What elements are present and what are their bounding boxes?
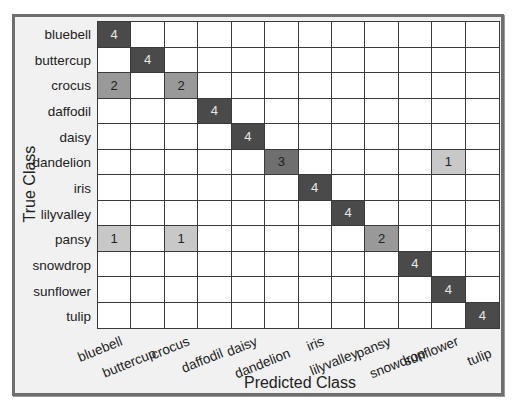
matrix-cell [466, 73, 499, 99]
matrix-cell [165, 277, 198, 303]
matrix-cell [466, 150, 499, 176]
matrix-cell [466, 201, 499, 227]
row-label: daisy [59, 129, 91, 144]
matrix-cell: 3 [265, 150, 298, 176]
matrix-cell [432, 99, 465, 125]
matrix-cell [198, 303, 231, 329]
row-label: daffodil [48, 103, 91, 118]
matrix-cell [432, 48, 465, 74]
matrix-cell [198, 48, 231, 74]
row-label: buttercup [35, 52, 91, 67]
matrix-cell [365, 99, 398, 125]
matrix-cell [365, 277, 398, 303]
matrix-cell: 2 [365, 226, 398, 252]
matrix-cell [165, 201, 198, 227]
matrix-cell [98, 303, 131, 329]
matrix-cell [399, 99, 432, 125]
matrix-cell: 4 [432, 277, 465, 303]
matrix-cell [432, 303, 465, 329]
matrix-cell [399, 277, 432, 303]
matrix-cell: 2 [165, 73, 198, 99]
matrix-cell [332, 48, 365, 74]
matrix-cell [332, 226, 365, 252]
matrix-cell [399, 150, 432, 176]
row-label: iris [74, 180, 91, 195]
matrix-cell [98, 48, 131, 74]
matrix-cell [131, 175, 164, 201]
matrix-cell [299, 201, 332, 227]
matrix-cell [432, 175, 465, 201]
matrix-cell [165, 48, 198, 74]
confusion-matrix-grid: 4422443144112444 [97, 21, 500, 329]
matrix-cell [198, 226, 231, 252]
matrix-cell [265, 22, 298, 48]
matrix-cell [265, 226, 298, 252]
matrix-cell [432, 201, 465, 227]
matrix-cell [299, 22, 332, 48]
row-label: bluebell [44, 26, 91, 41]
matrix-cell [198, 175, 231, 201]
matrix-cell [365, 303, 398, 329]
row-label: lilyvalley [41, 206, 91, 221]
matrix-cell [232, 303, 265, 329]
matrix-cell [399, 48, 432, 74]
matrix-cell [299, 303, 332, 329]
matrix-cell: 4 [299, 175, 332, 201]
matrix-cell [165, 124, 198, 150]
matrix-cell [265, 73, 298, 99]
matrix-cell [332, 22, 365, 48]
matrix-cell [198, 73, 231, 99]
matrix-cell [365, 48, 398, 74]
row-label: dandelion [32, 155, 91, 170]
matrix-cell [98, 277, 131, 303]
matrix-cell [299, 150, 332, 176]
matrix-cell [365, 201, 398, 227]
matrix-cell [466, 99, 499, 125]
matrix-cell [299, 277, 332, 303]
matrix-cell [131, 277, 164, 303]
matrix-cell [332, 303, 365, 329]
row-label: pansy [55, 232, 91, 247]
matrix-cell [265, 175, 298, 201]
matrix-cell [232, 175, 265, 201]
matrix-cell: 1 [165, 226, 198, 252]
matrix-cell [131, 124, 164, 150]
matrix-cell [399, 124, 432, 150]
matrix-cell [265, 48, 298, 74]
matrix-cell: 4 [232, 124, 265, 150]
matrix-cell [232, 48, 265, 74]
matrix-cell [332, 175, 365, 201]
matrix-cell [98, 150, 131, 176]
matrix-cell [198, 22, 231, 48]
matrix-cell [332, 277, 365, 303]
matrix-cell [466, 226, 499, 252]
matrix-cell [299, 73, 332, 99]
matrix-cell [299, 99, 332, 125]
matrix-cell [198, 277, 231, 303]
matrix-cell [232, 252, 265, 278]
matrix-cell: 1 [432, 150, 465, 176]
matrix-cell [332, 150, 365, 176]
row-label: sunflower [33, 283, 91, 298]
matrix-cell [432, 226, 465, 252]
matrix-cell [198, 150, 231, 176]
matrix-cell [299, 252, 332, 278]
matrix-cell [98, 201, 131, 227]
matrix-cell [265, 252, 298, 278]
matrix-cell: 4 [198, 99, 231, 125]
matrix-cell [299, 124, 332, 150]
matrix-cell: 2 [98, 73, 131, 99]
matrix-cell [399, 73, 432, 99]
matrix-cell [232, 99, 265, 125]
matrix-cell [365, 124, 398, 150]
matrix-cell [165, 252, 198, 278]
matrix-cell [265, 99, 298, 125]
matrix-cell [131, 201, 164, 227]
matrix-cell [98, 99, 131, 125]
matrix-cell [165, 22, 198, 48]
matrix-cell: 1 [98, 226, 131, 252]
matrix-cell [332, 124, 365, 150]
row-label: snowdrop [32, 257, 91, 272]
matrix-cell [165, 303, 198, 329]
matrix-cell [399, 22, 432, 48]
